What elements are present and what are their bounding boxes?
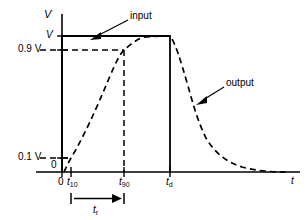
- y-axis-title: V: [44, 9, 51, 20]
- output-response-waveform: [64, 36, 286, 172]
- rise-time-label: tr: [93, 205, 98, 215]
- x-tick-label-td-sub: d: [169, 181, 173, 188]
- x-tick-label-td: td: [166, 177, 173, 187]
- rise-time-label-sub: r: [96, 209, 98, 216]
- y-tick-label-zero: 0: [51, 160, 57, 170]
- x-tick-label-t10-sub: 10: [70, 181, 78, 188]
- x-axis-title: t: [291, 176, 294, 186]
- x-tick-label-t90: t90: [119, 177, 130, 187]
- y-tick-label-09v: 0.9 V: [18, 44, 41, 54]
- y-tick-label-v: V: [46, 30, 53, 40]
- output-leader-arrowhead: [196, 96, 207, 105]
- x-tick-label-origin: 0: [58, 177, 64, 187]
- y-tick-label-01v: 0.1 V: [18, 152, 41, 162]
- x-tick-label-t90-sub: 90: [122, 181, 130, 188]
- x-tick-label-t10: t10: [67, 177, 78, 187]
- input-annotation-label: input: [130, 11, 152, 21]
- pulse-rise-time-figure: V V 0.9 V 0.1 V 0 0 t10 t90 td t input o…: [0, 0, 308, 220]
- output-annotation-label: output: [226, 78, 254, 88]
- rise-time-bracket-arrowhead: [112, 194, 122, 203]
- input-leader-line: [97, 20, 128, 36]
- input-pulse-waveform: [62, 36, 170, 172]
